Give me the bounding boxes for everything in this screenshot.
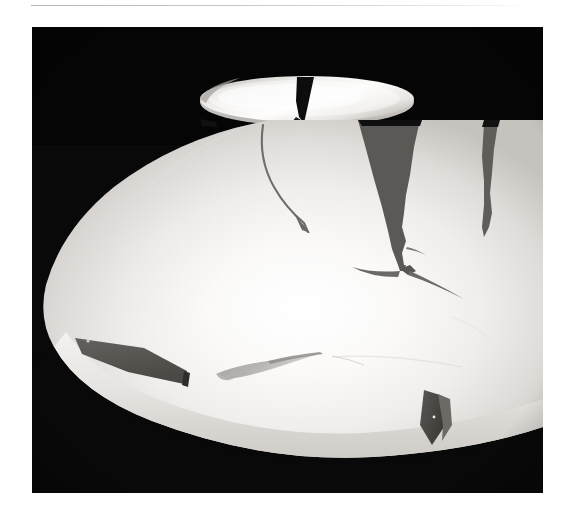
page-canvas: Large white ceramic bowl with dark jagge…	[0, 0, 566, 526]
photograph	[32, 27, 543, 493]
photo-artwork	[32, 27, 543, 493]
horizontal-rule	[31, 5, 533, 6]
vignette	[32, 27, 543, 493]
